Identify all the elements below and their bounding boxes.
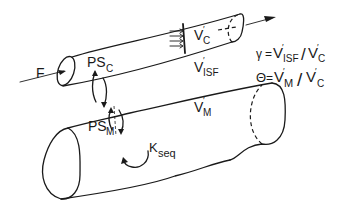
- svg-text:C: C: [203, 35, 210, 46]
- v-isf-label: V ′ ISF: [194, 55, 219, 78]
- flow-arrow: [20, 16, 276, 82]
- svg-text:′: ′: [315, 66, 317, 76]
- muscle-tube: [43, 83, 286, 199]
- svg-text:M: M: [284, 77, 293, 89]
- svg-text:C: C: [317, 78, 324, 89]
- svg-text:′: ′: [203, 55, 205, 65]
- svg-text:PS: PS: [87, 54, 106, 70]
- svg-text:/: /: [301, 45, 306, 64]
- svg-text:K: K: [149, 140, 158, 155]
- exchange-arrows-ps-c: [92, 70, 107, 108]
- svg-text:ISF: ISF: [203, 67, 219, 78]
- svg-text:′: ′: [203, 24, 205, 34]
- ps-c-label: PS C: [87, 54, 113, 74]
- svg-text:ISF: ISF: [283, 53, 299, 64]
- svg-text:′: ′: [317, 42, 319, 52]
- svg-text:=: =: [265, 47, 272, 61]
- svg-text:/: /: [297, 69, 303, 90]
- sequestration-arrow: [121, 151, 148, 167]
- equation-theta: Θ = V ′ M / V ′ C: [256, 66, 324, 90]
- v-m-label: V ′ M: [194, 95, 211, 118]
- svg-text:Θ: Θ: [256, 70, 266, 85]
- svg-text:seq: seq: [158, 147, 176, 159]
- svg-text:=: =: [266, 71, 273, 85]
- svg-text:′: ′: [282, 42, 284, 52]
- svg-text:M: M: [106, 126, 114, 137]
- svg-text:M: M: [203, 107, 211, 118]
- ps-m-label: PS M: [88, 118, 114, 137]
- svg-text:C: C: [318, 53, 325, 64]
- v-c-label: V ′ C: [194, 24, 210, 46]
- arrowhead-icon: [58, 70, 66, 75]
- svg-text:PS: PS: [88, 118, 107, 134]
- equation-gamma: γ = V ′ ISF / V ′ C: [256, 42, 325, 64]
- flow-label: F: [36, 65, 45, 81]
- svg-text:C: C: [106, 63, 113, 74]
- arrowhead-icon: [264, 16, 276, 22]
- svg-text:γ: γ: [256, 47, 262, 61]
- k-seq-label: K seq: [149, 140, 176, 159]
- compartment-diagram: F PS C V ′ C V ′ ISF V ′ M PS M K seq γ …: [0, 0, 342, 213]
- svg-text:′: ′: [283, 66, 285, 76]
